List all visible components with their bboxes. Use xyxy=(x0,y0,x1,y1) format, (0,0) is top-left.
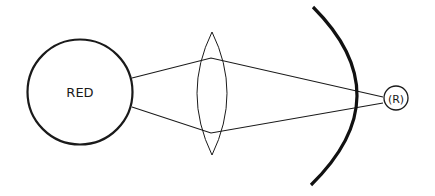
source-node: RED xyxy=(28,40,133,145)
source-label: RED xyxy=(66,85,93,100)
target-node: (R) xyxy=(384,86,408,110)
rays xyxy=(132,58,383,133)
target-label: (R) xyxy=(388,93,404,106)
upper-ray xyxy=(132,58,383,97)
lower-ray xyxy=(132,103,383,133)
biconvex-lens xyxy=(197,32,227,155)
optics-diagram: RED (R) xyxy=(0,0,435,196)
curved-mirror-arc xyxy=(311,7,357,185)
